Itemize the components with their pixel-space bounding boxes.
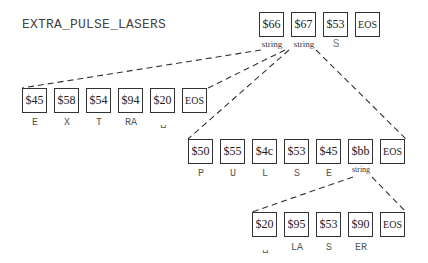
cell-label: ER — [341, 242, 381, 253]
byte-cell: $53 — [284, 139, 309, 164]
byte-cell: $67 — [291, 12, 316, 37]
byte-cell: $45 — [316, 139, 341, 164]
byte-cell: $45 — [22, 88, 47, 113]
byte-cell: $20 — [252, 212, 277, 237]
byte-cell: $20 — [150, 88, 175, 113]
cell-label: ␣ — [143, 117, 183, 129]
byte-cell: $53 — [316, 212, 341, 237]
byte-cell: $53 — [323, 12, 348, 37]
pointer-line-67-to-pulse-end — [316, 50, 406, 139]
byte-cell: $55 — [220, 139, 245, 164]
byte-cell: $66 — [259, 12, 284, 37]
byte-cell: $94 — [118, 88, 143, 113]
byte-cell: $90 — [348, 212, 373, 237]
byte-cell: $95 — [284, 212, 309, 237]
eos-cell: EOS — [380, 139, 405, 164]
eos-cell: EOS — [355, 12, 380, 37]
eos-cell: EOS — [380, 212, 405, 237]
pointer-line-66-to-extra — [22, 50, 261, 88]
byte-cell: $58 — [54, 88, 79, 113]
eos-cell: EOS — [182, 88, 207, 113]
byte-cell: $50 — [188, 139, 213, 164]
pointer-line-bb-to-lasers — [252, 177, 353, 212]
byte-cell: $54 — [86, 88, 111, 113]
pointer-line-66-to-extra-end — [208, 50, 285, 88]
cell-label: string — [341, 165, 381, 174]
cell-label: S — [316, 38, 356, 49]
pointer-line-bb-to-lasers-end — [372, 177, 406, 212]
byte-cell: $4c — [252, 139, 277, 164]
byte-cell: $bb — [348, 139, 373, 164]
